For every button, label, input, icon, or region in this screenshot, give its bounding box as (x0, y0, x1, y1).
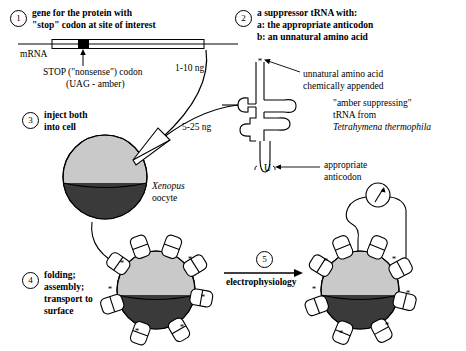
svg-text:*: * (324, 256, 329, 266)
svg-text:*: * (406, 288, 411, 298)
svg-text:*: * (385, 320, 390, 330)
svg-text:*: * (392, 254, 397, 264)
voltmeter-icon (366, 183, 390, 207)
recording-cell-icon: * * * * * * (0, 0, 466, 351)
figure-canvas: 1 gene for the protein with "stop" codon… (0, 0, 466, 351)
electrode-wire-right (390, 197, 406, 258)
svg-text:*: * (339, 328, 344, 338)
svg-text:*: * (312, 284, 317, 294)
